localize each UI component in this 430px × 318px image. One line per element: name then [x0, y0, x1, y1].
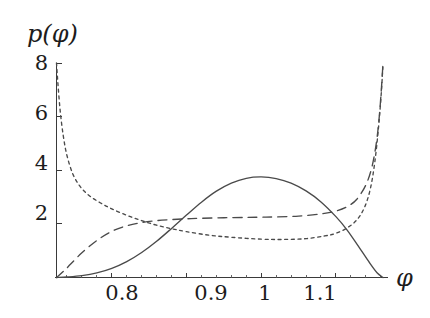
- x-axis-label: φ: [396, 266, 413, 290]
- axes-group: [55, 63, 388, 278]
- y-tick-label-4: 4: [26, 153, 48, 174]
- x-tick-label-2: 1: [250, 283, 280, 304]
- y-axis-ticks: [57, 63, 62, 224]
- x-tick-label-1: 0.9: [186, 283, 236, 304]
- dotted-curve: [57, 63, 384, 239]
- x-axis-ticks: [67, 273, 381, 278]
- y-tick-label-6: 6: [26, 103, 48, 124]
- chart-figure: p(φ) φ 8 6 4 2 0.8 0.9 1 1.1: [0, 0, 430, 318]
- y-tick-label-2: 2: [26, 203, 48, 224]
- dashed-curve: [57, 63, 384, 278]
- data-curves: [57, 63, 384, 278]
- y-tick-label-8: 8: [26, 53, 48, 74]
- y-axis-label: p(φ): [27, 22, 78, 46]
- x-tick-label-0: 0.8: [97, 283, 147, 304]
- x-tick-label-3: 1.1: [295, 283, 345, 304]
- solid-curve: [57, 177, 384, 278]
